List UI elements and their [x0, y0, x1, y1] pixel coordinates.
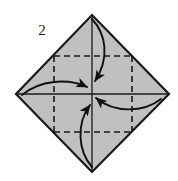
center-creases — [16, 15, 169, 172]
origami-diagram-canvas: 2 — [0, 0, 178, 181]
origami-figure: 2 — [0, 0, 178, 181]
step-number-label: 2 — [38, 22, 46, 38]
